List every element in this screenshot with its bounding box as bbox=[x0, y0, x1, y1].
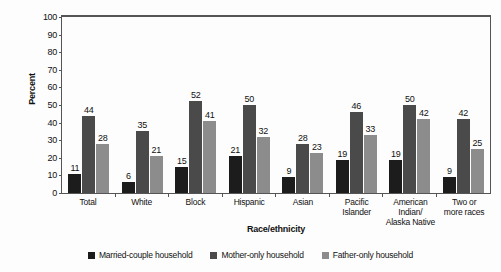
bar-value-label: 25 bbox=[473, 138, 482, 149]
bar-value-label: 33 bbox=[366, 124, 375, 135]
legend-item[interactable]: Married-couple household bbox=[88, 250, 192, 260]
bar-value-label: 9 bbox=[447, 166, 452, 177]
x-axis-tick-line: Hispanic bbox=[222, 197, 276, 207]
bar-value-label: 35 bbox=[138, 120, 147, 131]
y-axis-tick-label: 30 bbox=[48, 135, 62, 145]
y-axis-tick-label: 40 bbox=[48, 118, 62, 128]
bar[interactable]: 50 bbox=[243, 105, 256, 193]
bar-value-label: 11 bbox=[70, 163, 79, 174]
legend-item[interactable]: Father-only household bbox=[322, 250, 413, 260]
x-axis-title: Race/ethnicity bbox=[61, 224, 491, 234]
bar-value-label: 19 bbox=[391, 149, 400, 160]
bar[interactable]: 19 bbox=[336, 160, 349, 193]
bar-group: 195042 bbox=[383, 17, 437, 193]
chart-figure: Percent 1009080706050403020100 114428635… bbox=[0, 0, 501, 272]
bar[interactable]: 42 bbox=[417, 119, 430, 193]
x-axis-tick-line: American Indian/ bbox=[384, 197, 438, 217]
bar-value-label: 23 bbox=[312, 142, 321, 153]
bar-group: 94225 bbox=[437, 17, 491, 193]
bar[interactable]: 50 bbox=[403, 105, 416, 193]
bar-group: 215032 bbox=[223, 17, 277, 193]
x-axis-tick-label: Block bbox=[169, 197, 223, 227]
x-axis-tick-line: more races bbox=[437, 207, 491, 217]
bar[interactable]: 23 bbox=[310, 153, 323, 193]
bar[interactable]: 42 bbox=[457, 119, 470, 193]
x-axis-tick-line: Pacific bbox=[330, 197, 384, 207]
y-axis-tick-label: 60 bbox=[48, 82, 62, 92]
bar-group: 114428 bbox=[62, 17, 116, 193]
legend-swatch-icon bbox=[88, 252, 95, 259]
x-axis-tick-label: Two ormore races bbox=[437, 197, 491, 227]
bar-group: 155241 bbox=[169, 17, 223, 193]
legend-label: Married-couple household bbox=[99, 250, 192, 260]
bar[interactable]: 44 bbox=[82, 116, 95, 193]
bar[interactable]: 52 bbox=[189, 101, 202, 193]
x-axis-tick-label: Total bbox=[61, 197, 115, 227]
x-axis-tick-label: American Indian/Alaska Native bbox=[384, 197, 438, 227]
legend-label: Father-only household bbox=[333, 250, 413, 260]
bar-group: 194633 bbox=[330, 17, 384, 193]
bar[interactable]: 21 bbox=[229, 156, 242, 193]
x-axis-tick-label: Asian bbox=[276, 197, 330, 227]
bar-value-label: 50 bbox=[405, 94, 414, 105]
bar[interactable]: 21 bbox=[150, 156, 163, 193]
x-axis-tick-label: PacificIslander bbox=[330, 197, 384, 227]
bar-value-label: 46 bbox=[352, 101, 361, 112]
bar[interactable]: 25 bbox=[471, 149, 484, 193]
bar[interactable]: 46 bbox=[350, 112, 363, 193]
bar[interactable]: 28 bbox=[96, 144, 109, 193]
y-axis-tick-label: 90 bbox=[48, 30, 62, 40]
x-axis-tick-line: Total bbox=[61, 197, 115, 207]
bar[interactable]: 6 bbox=[122, 182, 135, 193]
bar[interactable]: 11 bbox=[68, 174, 81, 193]
bar[interactable]: 9 bbox=[282, 177, 295, 193]
bar-value-label: 21 bbox=[231, 145, 240, 156]
x-axis-tick-line: Block bbox=[169, 197, 223, 207]
x-axis-tick-label: White bbox=[115, 197, 169, 227]
bar[interactable]: 9 bbox=[443, 177, 456, 193]
y-axis-tick-label: 100 bbox=[43, 12, 62, 22]
legend-swatch-icon bbox=[210, 252, 217, 259]
bar[interactable]: 32 bbox=[257, 137, 270, 193]
plot-area: 1009080706050403020100 11442863521155241… bbox=[61, 15, 491, 194]
y-axis-tick-label: 20 bbox=[48, 153, 62, 163]
x-axis-tick-line: Islander bbox=[330, 207, 384, 217]
bar-value-label: 42 bbox=[419, 108, 428, 119]
y-axis-tick-label: 70 bbox=[48, 65, 62, 75]
bar[interactable]: 28 bbox=[296, 144, 309, 193]
bar-value-label: 44 bbox=[84, 105, 93, 116]
y-axis-tick-label: 80 bbox=[48, 47, 62, 57]
bar-value-label: 41 bbox=[205, 110, 214, 121]
bar-value-label: 21 bbox=[152, 145, 161, 156]
bar-value-label: 32 bbox=[259, 126, 268, 137]
x-axis-ticks: TotalWhiteBlockHispanicAsianPacificIslan… bbox=[61, 197, 491, 227]
bar-value-label: 42 bbox=[459, 108, 468, 119]
bar-value-label: 52 bbox=[191, 90, 200, 101]
x-axis-tick-line: Two or bbox=[437, 197, 491, 207]
x-axis-tick-line: Asian bbox=[276, 197, 330, 207]
bar-value-label: 6 bbox=[126, 171, 131, 182]
bar[interactable]: 35 bbox=[136, 131, 149, 193]
bar[interactable]: 41 bbox=[203, 121, 216, 193]
bar[interactable]: 19 bbox=[389, 160, 402, 193]
legend-swatch-icon bbox=[322, 252, 329, 259]
bar-value-label: 9 bbox=[286, 166, 291, 177]
bar-groups: 1144286352115524121503292823194633195042… bbox=[62, 17, 490, 193]
bar-value-label: 28 bbox=[98, 133, 107, 144]
legend-item[interactable]: Mother-only household bbox=[210, 250, 303, 260]
y-axis-tick-label: 50 bbox=[48, 100, 62, 110]
y-axis-title: Percent bbox=[27, 59, 37, 119]
bar-group: 92823 bbox=[276, 17, 330, 193]
bar-value-label: 15 bbox=[177, 156, 186, 167]
y-axis-tick-label: 10 bbox=[48, 170, 62, 180]
legend-label: Mother-only household bbox=[221, 250, 303, 260]
bar-value-label: 50 bbox=[245, 94, 254, 105]
chart-legend: Married-couple householdMother-only hous… bbox=[0, 250, 501, 260]
bar-group: 63521 bbox=[116, 17, 170, 193]
bar-value-label: 28 bbox=[298, 133, 307, 144]
x-axis-tick-label: Hispanic bbox=[222, 197, 276, 227]
bar[interactable]: 15 bbox=[175, 167, 188, 193]
bar-value-label: 19 bbox=[338, 149, 347, 160]
bar[interactable]: 33 bbox=[364, 135, 377, 193]
x-axis-tick-line: White bbox=[115, 197, 169, 207]
